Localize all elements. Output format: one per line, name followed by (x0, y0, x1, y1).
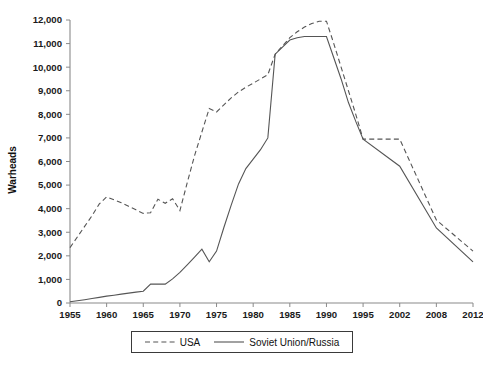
x-tick-label: 1975 (206, 309, 228, 320)
y-tick-label: 6,000 (38, 156, 62, 167)
x-tick-label: 2002 (389, 309, 410, 320)
x-tick-label: 1970 (169, 309, 190, 320)
y-tick-label: 12,000 (33, 14, 62, 25)
line-chart-plot: 01,0002,0003,0004,0005,0006,0007,0008,00… (0, 0, 483, 330)
y-axis: 01,0002,0003,0004,0005,0006,0007,0008,00… (7, 14, 70, 308)
y-tick-label: 3,000 (38, 227, 62, 238)
data-series-group (70, 21, 473, 302)
y-tick-label: 0 (57, 297, 62, 308)
x-tick-marks (70, 303, 473, 307)
y-tick-label: 4,000 (38, 203, 62, 214)
legend-label-usa: USA (180, 337, 201, 348)
y-tick-label: 11,000 (33, 38, 62, 49)
y-tick-label: 2,000 (38, 250, 62, 261)
x-axis: 1955196019651970197519801985199019952002… (59, 303, 483, 320)
chart-legend: USA Soviet Union/Russia (131, 331, 353, 353)
y-tick-label: 8,000 (38, 109, 62, 120)
y-tick-label: 1,000 (38, 274, 62, 285)
x-tick-label: 1980 (243, 309, 264, 320)
chart-container: 01,0002,0003,0004,0005,0006,0007,0008,00… (0, 0, 483, 367)
y-tick-label: 9,000 (38, 85, 62, 96)
x-tick-label: 2012 (462, 309, 483, 320)
y-tick-label: 5,000 (38, 179, 62, 190)
series-line-soviet-union-russia (70, 37, 473, 302)
series-line-usa (70, 21, 473, 251)
x-tick-label: 1960 (96, 309, 117, 320)
x-tick-label: 1985 (279, 309, 301, 320)
x-tick-label: 1955 (59, 309, 81, 320)
y-tick-label: 7,000 (38, 132, 62, 143)
x-tick-labels: 1955196019651970197519801985199019952002… (59, 309, 483, 320)
legend-label-soviet-union-russia: Soviet Union/Russia (249, 337, 339, 348)
y-tick-marks (66, 20, 70, 303)
legend-swatch-dashed-line (145, 338, 175, 346)
y-tick-label: 10,000 (33, 62, 62, 73)
x-tick-label: 2008 (426, 309, 448, 320)
y-tick-labels: 01,0002,0003,0004,0005,0006,0007,0008,00… (33, 14, 62, 308)
legend-entry-usa: USA (145, 337, 201, 348)
x-tick-label: 1965 (133, 309, 155, 320)
x-tick-label: 1990 (316, 309, 337, 320)
y-axis-title: Warheads (7, 146, 18, 194)
x-tick-label: 1995 (352, 309, 374, 320)
legend-entry-soviet-union-russia: Soviet Union/Russia (214, 337, 339, 348)
legend-swatch-solid-line (214, 338, 244, 346)
